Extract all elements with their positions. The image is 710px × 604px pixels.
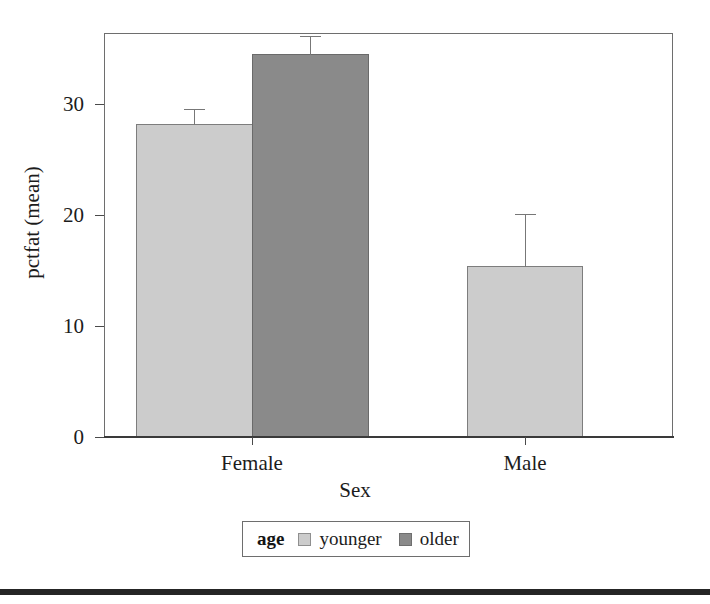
bar-chart-figure: pctfat (mean) 30 20 10 0	[0, 0, 710, 604]
bar-male-younger[interactable]	[467, 266, 583, 437]
bar-female-younger[interactable]	[136, 124, 253, 437]
x-tick-mark-female	[252, 437, 253, 445]
legend-swatch-younger-icon	[298, 533, 311, 546]
y-tick-mark-10	[95, 326, 104, 327]
y-tick-mark-20	[95, 215, 104, 216]
legend-swatch-older-icon	[399, 533, 412, 546]
legend-label-younger: younger	[319, 528, 381, 550]
y-tick-mark-30	[95, 104, 104, 105]
error-bar-cap-female-older	[300, 36, 321, 37]
y-tick-label-0: 0	[40, 427, 84, 448]
y-tick-label-20: 20	[40, 205, 84, 226]
error-bar-stem-male-younger	[525, 214, 526, 267]
legend-label-older: older	[420, 528, 459, 550]
page-bottom-rule	[0, 589, 710, 595]
y-tick-label-30: 30	[40, 94, 84, 115]
x-axis-baseline	[104, 436, 674, 438]
x-axis-title: Sex	[0, 478, 710, 503]
legend: age younger older	[242, 521, 470, 557]
y-tick-label-10: 10	[40, 316, 84, 337]
x-tick-mark-male	[525, 437, 526, 445]
legend-title: age	[257, 528, 284, 550]
bar-female-older[interactable]	[252, 54, 369, 437]
x-tick-label-male: Male	[465, 452, 585, 475]
legend-entry-older[interactable]: older	[399, 528, 459, 550]
error-bar-stem-female-older	[310, 36, 311, 55]
error-bar-cap-male-younger	[515, 214, 536, 215]
x-tick-label-female: Female	[192, 452, 312, 475]
y-tick-mark-0	[95, 437, 104, 438]
error-bar-stem-female-younger	[194, 109, 195, 125]
legend-entry-younger[interactable]: younger	[298, 528, 381, 550]
error-bar-cap-female-younger	[184, 109, 205, 110]
